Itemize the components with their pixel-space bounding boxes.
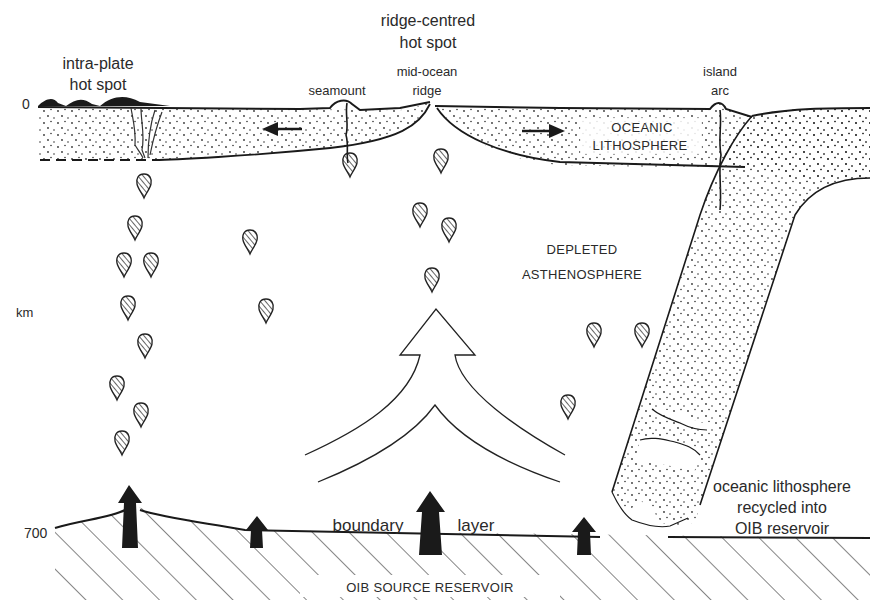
intra-plate-label-1: intra-plate <box>62 55 133 72</box>
layer-label: layer <box>458 516 495 535</box>
boundary-label: boundary <box>333 516 404 535</box>
left-oceanic-plate <box>38 97 430 163</box>
mantle-plume-diagram: 0 km 700 intra-plate hot spot ridge-cent… <box>0 0 883 605</box>
depleted-asthenosphere-label-2: ASTHENOSPHERE <box>522 267 642 282</box>
oib-source-reservoir-label: OIB SOURCE RESERVOIR <box>346 580 514 595</box>
seamount-label: seamount <box>308 83 365 98</box>
oceanic-lithosphere-label-1: OCEANIC <box>611 120 672 135</box>
recycled-label-1: oceanic lithosphere <box>713 478 851 495</box>
mid-ocean-ridge-label-2: ridge <box>413 83 442 98</box>
mid-ocean-ridge-label-1: mid-ocean <box>397 64 458 79</box>
ridge-hotspot-label-2: hot spot <box>400 34 457 51</box>
depth-unit-label: km <box>16 305 33 320</box>
oceanic-lithosphere-label-2: LITHOSPHERE <box>592 138 687 153</box>
subducting-slab <box>612 108 870 527</box>
ridge-hotspot-label-1: ridge-centred <box>381 12 475 29</box>
intra-plate-volcanoes <box>38 97 170 106</box>
recycled-label-3: OIB reservoir <box>735 520 830 537</box>
upwelling-arrow <box>305 309 565 482</box>
depth-label-700: 700 <box>24 525 48 541</box>
depth-label-0: 0 <box>22 96 30 112</box>
island-arc-label-2: arc <box>711 83 730 98</box>
island-arc-label-1: island <box>703 64 737 79</box>
plume-blobs <box>110 149 649 455</box>
recycled-label-2: recycled into <box>737 499 827 516</box>
depleted-asthenosphere-label-1: DEPLETED <box>546 242 617 257</box>
intra-plate-label-2: hot spot <box>70 76 127 93</box>
